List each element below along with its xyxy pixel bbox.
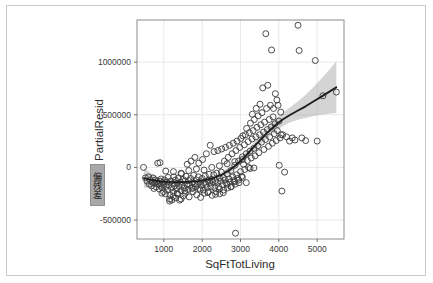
figure-frame: 10002000300040005000 -500000050000010000…	[6, 5, 426, 276]
y-tick-label: 500000	[103, 110, 132, 120]
x-axis-title: SqFtTotLiving	[205, 258, 275, 270]
x-tick-label: 5000	[308, 244, 327, 254]
y-tick-label: 0	[126, 162, 131, 172]
chart-svg: 10002000300040005000 -500000050000010000…	[7, 6, 427, 277]
x-tick-label: 1000	[154, 244, 173, 254]
x-axis-ticks: 10002000300040005000	[154, 239, 327, 254]
y-axis-title: PartialResid	[93, 99, 105, 161]
selected-text-annotation[interactable]: 偏残差	[90, 164, 105, 206]
x-tick-label: 3000	[231, 244, 250, 254]
scatter-plot-area[interactable]: 10002000300040005000 -500000050000010000…	[7, 6, 427, 277]
x-tick-label: 2000	[193, 244, 212, 254]
y-tick-label: -500000	[100, 215, 131, 225]
y-tick-label: 1000000	[98, 57, 131, 67]
x-tick-label: 4000	[269, 244, 288, 254]
selected-annotation-label: 偏残差	[93, 172, 103, 199]
